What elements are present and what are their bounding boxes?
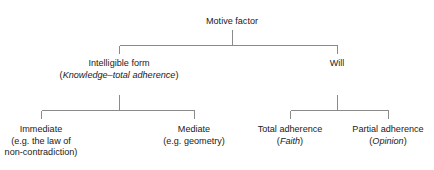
node-total-adherence-emphasis: Faith	[280, 136, 300, 146]
node-immediate-line-3: non-contradiction)	[5, 147, 78, 159]
node-total-adherence: Total adherence(Faith)	[258, 124, 323, 147]
node-mediate: Mediate(e.g. geometry)	[163, 124, 225, 147]
node-partial-adherence-line-1: Partial adherence	[352, 124, 423, 136]
node-partial-adherence: Partial adherence(Opinion)	[352, 124, 423, 147]
node-immediate: Immediate(e.g. the law ofnon-contradicti…	[5, 124, 78, 159]
node-will-line-1: Will	[330, 58, 345, 70]
tree-diagram: Motive factorIntelligible form(Knowledge…	[0, 0, 434, 170]
node-will: Will	[330, 58, 345, 70]
node-partial-adherence-line-2: (Opinion)	[352, 136, 423, 148]
node-immediate-line-1: Immediate	[5, 124, 78, 136]
node-intelligible-form-line-2: (Knowledge–total adherence)	[60, 70, 179, 82]
node-mediate-line-2: (e.g. geometry)	[163, 136, 225, 148]
node-intelligible-form: Intelligible form(Knowledge–total adhere…	[60, 58, 179, 81]
node-intelligible-form-emphasis: Knowledge–total adherence	[63, 70, 176, 80]
node-mediate-line-1: Mediate	[163, 124, 225, 136]
node-partial-adherence-emphasis: Opinion	[372, 136, 403, 146]
node-intelligible-form-line-1: Intelligible form	[60, 58, 179, 70]
node-immediate-line-2: (e.g. the law of	[5, 136, 78, 148]
node-motive-factor-line-1: Motive factor	[206, 16, 258, 28]
node-total-adherence-line-1: Total adherence	[258, 124, 323, 136]
node-motive-factor: Motive factor	[206, 16, 258, 28]
node-total-adherence-line-2: (Faith)	[258, 136, 323, 148]
